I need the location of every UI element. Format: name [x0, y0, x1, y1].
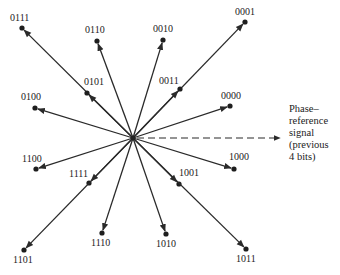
phase-vector-1010: 1010: [133, 138, 176, 249]
vector-label: 1011: [236, 253, 256, 264]
vector-label: 0110: [85, 24, 105, 35]
vector-endpoint-dot: [177, 86, 182, 91]
phase-vectors: 0111011000100001010100110100000011001000…: [10, 6, 256, 265]
vector-line: [133, 138, 165, 231]
vector-endpoint-dot: [227, 103, 232, 108]
vector-endpoint-dot: [33, 166, 38, 171]
vector-endpoint-dot: [242, 19, 247, 24]
phase-vector-0100: 0100: [21, 91, 133, 138]
vector-label: 0010: [153, 23, 173, 34]
vector-endpoint-dot: [160, 37, 165, 42]
vector-label: 1010: [156, 238, 176, 249]
vector-label: 1110: [91, 237, 110, 248]
vector-label: 1100: [22, 153, 42, 164]
vector-label: 0000: [221, 90, 241, 101]
phase-vector-0011: 0011: [133, 75, 183, 138]
vector-endpoint-dot: [94, 38, 99, 43]
vector-label: 1111: [69, 168, 88, 179]
vector-label: 0111: [10, 12, 29, 23]
vector-endpoint-dot: [84, 90, 89, 95]
vector-endpoint-dot: [231, 166, 236, 171]
phase-vector-1110: 1110: [91, 138, 133, 248]
vector-label: 0101: [84, 76, 104, 87]
origin-point: [131, 136, 136, 141]
vector-label: 1101: [13, 254, 33, 265]
vector-label: 0011: [159, 75, 179, 86]
vector-label: 1000: [229, 151, 249, 162]
vector-endpoint-dot: [21, 247, 26, 252]
phase-vector-0101: 0101: [84, 76, 133, 138]
vector-label: 0001: [235, 6, 255, 17]
phase-vector-1111: 1111: [69, 138, 133, 186]
vector-endpoint-dot: [19, 25, 24, 30]
phase-vector-0000: 0000: [133, 90, 241, 138]
phase-reference-label: Phase– reference signal (previous 4 bits…: [289, 103, 329, 163]
phase-vector-1001: 1001: [133, 138, 199, 187]
vector-label: 0100: [21, 91, 41, 102]
vector-endpoint-dot: [243, 246, 248, 251]
vector-line: [98, 44, 133, 138]
vector-endpoint-dot: [99, 230, 104, 235]
vector-endpoint-dot: [32, 105, 37, 110]
vector-line: [103, 138, 133, 230]
vector-endpoint-dot: [163, 231, 168, 236]
vector-label: 1001: [179, 167, 199, 178]
